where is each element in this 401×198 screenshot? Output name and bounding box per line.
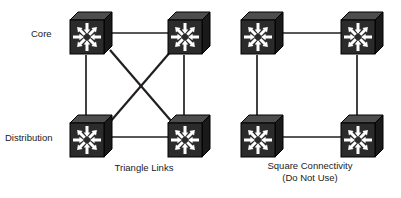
caption-line: Square Connectivity bbox=[210, 160, 401, 172]
label-layer: CoreDistributionTriangle LinksSquare Con… bbox=[0, 0, 401, 198]
caption-square: Square Connectivity(Do Not Use) bbox=[210, 160, 401, 184]
network-topology-diagram: CoreDistributionTriangle LinksSquare Con… bbox=[0, 0, 401, 198]
caption-line: (Do Not Use) bbox=[210, 172, 401, 184]
row-label-distribution: Distribution bbox=[5, 132, 53, 143]
row-label-core: Core bbox=[31, 28, 52, 39]
